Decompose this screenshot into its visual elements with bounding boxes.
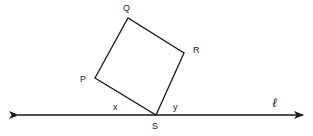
vertex-label-q: Q xyxy=(123,3,130,13)
vertex-label-s: S xyxy=(152,121,158,131)
angle-label-x: x xyxy=(113,102,118,112)
line-label-l: ℓ xyxy=(272,95,277,111)
quadrilateral-pqrs xyxy=(95,18,184,115)
geometry-canvas xyxy=(0,0,313,136)
geometry-figure: Q R P S x y ℓ xyxy=(0,0,313,136)
vertex-label-p: P xyxy=(80,74,86,84)
angle-label-y: y xyxy=(173,102,178,112)
vertex-label-r: R xyxy=(193,45,200,55)
